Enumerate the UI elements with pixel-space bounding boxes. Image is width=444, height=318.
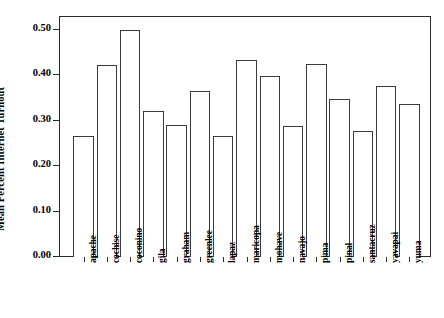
bar (399, 104, 419, 257)
x-category-label: pinal (344, 243, 354, 263)
bar (306, 64, 326, 257)
x-category-label: mohave (274, 232, 284, 263)
x-category-label: maricopa (251, 225, 261, 263)
bar (213, 136, 233, 257)
x-tick-mark (386, 257, 387, 262)
x-tick-mark (270, 257, 271, 262)
x-tick-mark (130, 257, 131, 262)
x-tick-mark (409, 257, 410, 262)
x-category-label: greenlee (204, 230, 214, 263)
x-category-label: navajo (297, 236, 307, 263)
y-tick-label: 0.30 (33, 113, 51, 124)
x-tick-mark (84, 257, 85, 262)
x-tick-mark (107, 257, 108, 262)
y-tick-label: 0.20 (33, 158, 51, 169)
x-category-label: lapaz (227, 242, 237, 263)
x-category-label: graham (181, 232, 191, 263)
bar (260, 76, 280, 257)
x-category-label: yuma (413, 241, 423, 263)
x-tick-mark (200, 257, 201, 262)
x-category-label: apache (88, 235, 98, 263)
bar (120, 30, 140, 257)
bar-chart-figure: Mean Percent Internet Turnout 0.000.100.… (0, 0, 444, 318)
x-category-label: coconino (134, 228, 144, 263)
x-axis-category-labels: apachecochisecoconinogilagrahamgreenleel… (59, 263, 431, 318)
x-category-label: pima (320, 243, 330, 263)
y-tick-label: 0.40 (33, 67, 51, 78)
x-tick-mark (340, 257, 341, 262)
y-tick-label: 0.00 (33, 249, 51, 260)
x-tick-mark (153, 257, 154, 262)
x-category-label: santacruz (367, 224, 377, 263)
bar-series (59, 16, 431, 257)
x-tick-mark (363, 257, 364, 262)
bar (143, 111, 163, 257)
x-tick-mark (223, 257, 224, 262)
x-tick-mark (177, 257, 178, 262)
x-category-label: cochise (111, 235, 121, 263)
x-category-label: gila (157, 249, 167, 263)
x-category-label: yavapai (390, 232, 400, 263)
x-tick-mark (293, 257, 294, 262)
bar (97, 65, 117, 257)
y-tick-label: 0.10 (33, 204, 51, 215)
bar (329, 99, 349, 257)
y-tick-label: 0.50 (33, 22, 51, 33)
x-tick-mark (316, 257, 317, 262)
x-tick-mark (247, 257, 248, 262)
